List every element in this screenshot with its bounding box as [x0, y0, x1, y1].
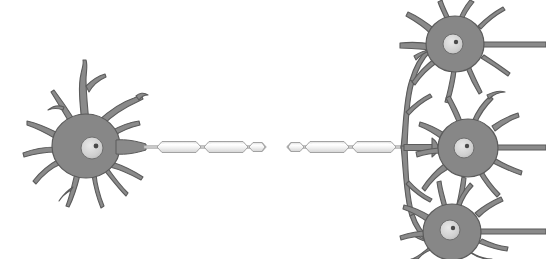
nucleolus: [454, 40, 458, 44]
myelin-highlight: [312, 144, 342, 146]
dendrite: [483, 42, 546, 47]
myelin-highlight: [211, 144, 241, 146]
neuron-diagram-canvas: [0, 0, 546, 259]
myelin-segment: [157, 142, 201, 153]
myelin-highlight: [359, 144, 389, 146]
nucleolus: [94, 144, 99, 149]
nucleus: [443, 34, 463, 54]
myelin-segment: [204, 142, 248, 153]
neuron-diagram-figure: [0, 0, 546, 259]
myelin-highlight: [164, 144, 194, 146]
myelin-segment: [305, 142, 349, 153]
nucleolus: [451, 226, 455, 230]
nucleolus: [465, 144, 469, 148]
dendrite: [497, 145, 546, 150]
dendrite: [480, 229, 546, 234]
nucleus: [81, 137, 103, 159]
nucleus: [454, 138, 474, 158]
nucleus: [440, 220, 460, 240]
myelin-segment: [352, 142, 396, 153]
